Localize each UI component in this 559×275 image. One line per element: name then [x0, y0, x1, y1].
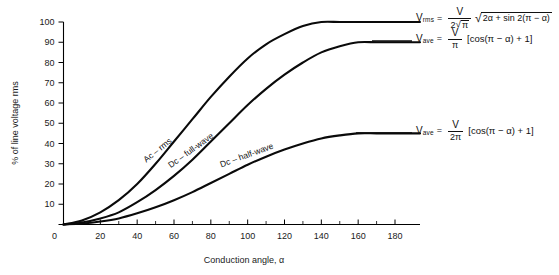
y-tick-label-80: 80	[44, 58, 54, 68]
y-tick-label-10: 10	[44, 199, 54, 209]
x-axis-title: Conduction angle, α	[204, 255, 284, 265]
formula-ave-full-fraction: V π	[448, 28, 462, 50]
formula-ave-full-numerator: V	[450, 28, 461, 39]
y-tick-label-20: 20	[44, 179, 54, 189]
x-tick-label-120: 120	[277, 231, 292, 241]
y-tick-label-90: 90	[44, 37, 54, 47]
y-tick-label-40: 40	[44, 139, 54, 149]
x-tick-label-60: 60	[169, 231, 179, 241]
y-axis-ticks	[59, 22, 64, 225]
x-tick-label-180: 180	[387, 231, 402, 241]
x-tick-label-40: 40	[132, 231, 142, 241]
formula-ave-half: Vave = V 2π [cos(π − α) + 1]	[416, 120, 534, 142]
x-axis-ticks	[82, 220, 395, 225]
x-tick-label-100: 100	[240, 231, 255, 241]
y-tick-label-30: 30	[44, 159, 54, 169]
formula-ave-half-equals: =	[437, 126, 442, 135]
curve-2	[64, 133, 421, 224]
formula-rms: Vrms = V 2√π √ 2α + sin 2(π − α)	[416, 7, 552, 30]
formula-ave-half-numerator: V	[450, 120, 461, 131]
formula-ave-full-subscript: ave	[423, 38, 434, 45]
y-axis-tick-labels: 1020304050607080901000	[39, 17, 57, 240]
y-axis-title: % of line voltage rms	[10, 81, 20, 165]
y-tick-label-60: 60	[44, 98, 54, 108]
formula-rms-equals: =	[437, 14, 442, 23]
formula-ave-full-denominator: π	[450, 40, 460, 50]
formula-ave-half-subscript: ave	[423, 130, 434, 137]
x-tick-label-20: 20	[95, 231, 105, 241]
formula-ave-half-denominator: 2π	[448, 132, 463, 142]
x-tick-label-160: 160	[351, 231, 366, 241]
formula-rms-variable: V	[416, 13, 423, 23]
formula-rms-numerator: V	[454, 7, 465, 18]
formula-rms-radicand: 2α + sin 2(π − α)	[481, 12, 552, 24]
x-tick-label-140: 140	[314, 231, 329, 241]
formula-rms-subscript: rms	[423, 17, 434, 24]
formula-ave-full-bracket: [cos(π − α) + 1]	[467, 34, 532, 44]
chart-figure: 1020304050607080901000 20406080100120140…	[0, 0, 559, 275]
formula-ave-half-variable: V	[416, 126, 423, 136]
curve-label-1: Dc – full-wave	[166, 130, 215, 170]
formula-ave-full-variable: V	[416, 34, 423, 44]
y-tick-label-50: 50	[44, 118, 54, 128]
formula-ave-half-bracket: [cos(π − α) + 1]	[468, 126, 533, 136]
formula-rms-radical: √ 2α + sin 2(π − α)	[475, 12, 552, 24]
data-curves	[64, 22, 421, 225]
x-tick-label-80: 80	[206, 231, 216, 241]
x-axis-tick-labels: 20406080100120140160180	[95, 231, 402, 241]
curve-0	[64, 22, 421, 225]
formula-ave-half-fraction: V 2π	[448, 120, 463, 142]
formula-ave-full: Vave = V π [cos(π − α) + 1]	[416, 28, 532, 50]
origin-tick-label-0: 0	[52, 231, 57, 241]
formula-ave-full-equals: =	[437, 34, 442, 43]
curve-inline-labels: Ac – rmsDc – full-waveDc – half-wave	[141, 130, 275, 170]
y-tick-label-70: 70	[44, 78, 54, 88]
y-tick-label-100: 100	[39, 17, 54, 27]
